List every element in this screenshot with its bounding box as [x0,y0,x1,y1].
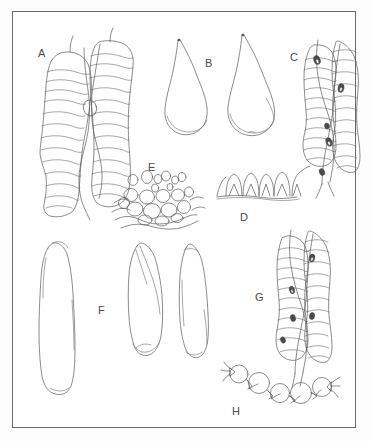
figure-canvas: .ln { fill: none; stroke: #5a5a5a; strok… [0,0,370,441]
illustration-plate: .ln { fill: none; stroke: #5a5a5a; strok… [0,0,370,441]
figure-label-c: C [290,52,298,63]
figure-b-drawing [165,34,275,136]
figure-label-h: H [232,406,240,417]
figure-g-drawing [276,230,332,388]
figure-f-drawing [39,242,208,395]
figure-h-drawing [221,362,340,404]
figure-c-drawing [303,40,360,198]
figure-d-drawing [217,166,310,201]
figure-label-f: F [98,305,105,316]
figure-label-g: G [255,292,264,303]
figure-label-d: D [240,212,248,223]
figure-e-drawing [112,171,205,230]
figure-a-drawing [40,28,133,220]
figure-label-a: A [38,48,46,59]
figure-label-b: B [205,58,213,69]
figure-label-e: E [148,162,156,173]
